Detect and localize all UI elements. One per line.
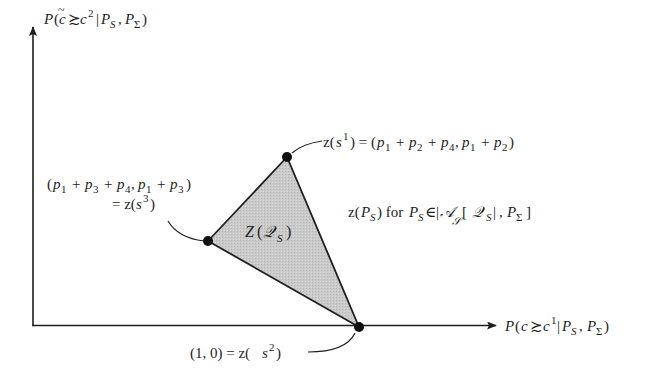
svg-text:= z(: = z( (112, 196, 136, 213)
vertex-s1 (282, 152, 292, 162)
svg-text:+: + (428, 134, 436, 150)
svg-text:) for: ) for (377, 204, 403, 221)
svg-text:P: P (586, 318, 596, 334)
svg-text:1: 1 (385, 141, 391, 153)
svg-text:c: c (80, 11, 87, 27)
svg-text:c: c (521, 318, 528, 334)
vertex-s3 (203, 236, 213, 246)
svg-text:P: P (561, 318, 571, 334)
svg-text:Σ: Σ (596, 325, 602, 337)
svg-text:S: S (277, 232, 283, 244)
svg-text:p: p (376, 134, 385, 150)
svg-text:p: p (116, 176, 125, 192)
svg-text:+: + (157, 176, 165, 192)
svg-text:𝒬: 𝒬 (472, 203, 485, 221)
leader-s1 (292, 141, 322, 153)
svg-text:P: P (100, 11, 110, 27)
svg-text:3: 3 (93, 183, 99, 195)
feasible-region (208, 157, 359, 327)
svg-text:(: ( (257, 223, 262, 241)
svg-text:s: s (336, 134, 342, 150)
svg-text:,: , (118, 11, 122, 27)
svg-text:s: s (262, 345, 268, 361)
svg-text:2: 2 (502, 141, 508, 153)
svg-text:P: P (408, 204, 418, 220)
svg-text:~: ~ (58, 3, 65, 17)
svg-text:): ) (142, 11, 147, 28)
svg-text:s: s (136, 196, 142, 212)
svg-text:P: P (360, 204, 370, 220)
svg-text:2: 2 (417, 141, 423, 153)
svg-text:[: [ (462, 204, 467, 220)
svg-text:∈|: ∈| (425, 204, 439, 220)
svg-text:3: 3 (143, 192, 149, 204)
svg-text:p: p (137, 176, 146, 192)
svg-text:1: 1 (470, 141, 476, 153)
svg-text:p: p (408, 134, 417, 150)
svg-text:Z: Z (245, 223, 255, 240)
y-axis-label: P ( c ~ ≿ c 2 | P S , P Σ ) (43, 3, 147, 30)
svg-text:P: P (506, 204, 516, 220)
svg-text:p: p (169, 176, 178, 192)
label-s2: (1, 0) = z( s 2 ) (190, 341, 281, 362)
svg-text:(1, 0) = z(: (1, 0) = z( (190, 345, 250, 362)
svg-text:): ) (150, 196, 155, 213)
label-s1: z( s 1 ) = ( p1 + p2 + p4 , p1 + p2 ) (323, 130, 514, 153)
svg-text:+: + (72, 176, 80, 192)
svg-text:(: ( (515, 318, 520, 335)
svg-text:P: P (43, 11, 53, 27)
svg-text:3: 3 (178, 183, 184, 195)
svg-text:P: P (124, 11, 134, 27)
svg-text:c: c (543, 318, 550, 334)
svg-text:S: S (370, 211, 376, 223)
svg-text:1: 1 (551, 314, 557, 326)
svg-text:≿: ≿ (530, 318, 543, 334)
svg-text:S: S (418, 211, 424, 223)
svg-text:p: p (493, 134, 502, 150)
svg-text:S: S (486, 211, 492, 223)
svg-text:(: ( (47, 176, 52, 193)
svg-text:p: p (84, 176, 93, 192)
svg-text:) = (: ) = ( (350, 134, 376, 151)
annotation-set: z( P S ) for P S ∈| 𝒜 𝒮 [ 𝒬 S | , P Σ ] (348, 203, 531, 228)
svg-text:,: , (131, 176, 135, 192)
svg-text:|: | (493, 204, 496, 220)
vertex-s2 (354, 322, 364, 332)
svg-text:z(: z( (323, 134, 335, 151)
svg-text:+: + (104, 176, 112, 192)
svg-text:Σ: Σ (134, 18, 140, 30)
svg-text:): ) (509, 134, 514, 151)
svg-text:): ) (286, 223, 291, 241)
svg-text:): ) (604, 318, 609, 335)
svg-text:Σ: Σ (516, 211, 522, 223)
svg-text:1: 1 (343, 130, 349, 142)
svg-text:|: | (96, 11, 99, 27)
svg-text:p: p (440, 134, 449, 150)
label-s3: ( p1 + p3 + p4 , p1 + p3 ) = z( s 3 ) (47, 176, 191, 213)
svg-text:,: , (455, 134, 459, 150)
svg-text:p: p (461, 134, 470, 150)
leader-s2 (308, 333, 355, 352)
svg-text:,: , (499, 204, 503, 220)
leader-s3 (168, 221, 204, 241)
svg-text:): ) (276, 345, 281, 362)
svg-text:|: | (557, 318, 560, 334)
svg-text:1: 1 (61, 183, 67, 195)
svg-text:2: 2 (269, 341, 275, 353)
svg-text:p: p (52, 176, 61, 192)
svg-text:+: + (396, 134, 404, 150)
svg-text:): ) (186, 176, 191, 193)
svg-text:,: , (579, 318, 583, 334)
svg-text:z(: z( (348, 204, 360, 221)
svg-text:+: + (481, 134, 489, 150)
svg-text:S: S (110, 18, 116, 30)
svg-text:]: ] (526, 204, 531, 220)
svg-text:S: S (571, 325, 577, 337)
svg-text:2: 2 (88, 7, 94, 19)
diagram-figure: P ( c ~ ≿ c 2 | P S , P Σ ) P ( c ≿ c 1 … (0, 0, 657, 381)
svg-text:P: P (504, 318, 514, 334)
x-axis-label: P ( c ≿ c 1 | P S , P Σ ) (504, 314, 609, 337)
